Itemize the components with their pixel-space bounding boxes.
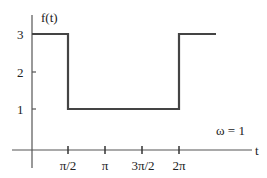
step-function-line <box>32 34 216 109</box>
x-tick-label-pi-half: π/2 <box>60 158 77 173</box>
y-tick-label-3: 3 <box>17 27 24 42</box>
x-tick-label-2pi: 2π <box>172 158 186 173</box>
x-axis-label: t <box>255 143 259 158</box>
x-tick-label-3pi-half: 3π/2 <box>131 158 154 173</box>
omega-annotation: ω = 1 <box>216 123 245 138</box>
y-tick-label-2: 2 <box>17 65 24 80</box>
y-axis-label: f(t) <box>41 10 58 25</box>
y-tick-label-1: 1 <box>17 102 24 117</box>
x-tick-label-pi: π <box>102 158 109 173</box>
chart: f(t) t 3 2 1 π/2 π 3π/2 2π ω = 1 <box>0 0 267 178</box>
